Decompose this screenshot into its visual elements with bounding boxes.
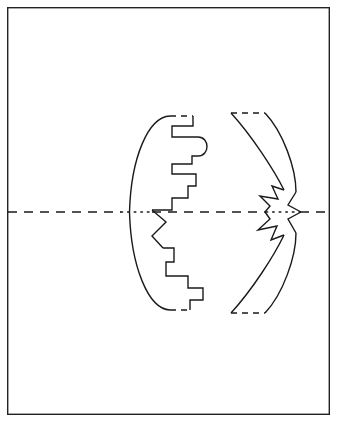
sheet-background <box>0 0 339 422</box>
pop-up-card-template-page: Pop-up Card Cutting Template cut line fo… <box>0 0 339 422</box>
cut-and-fold-diagram <box>0 0 339 422</box>
